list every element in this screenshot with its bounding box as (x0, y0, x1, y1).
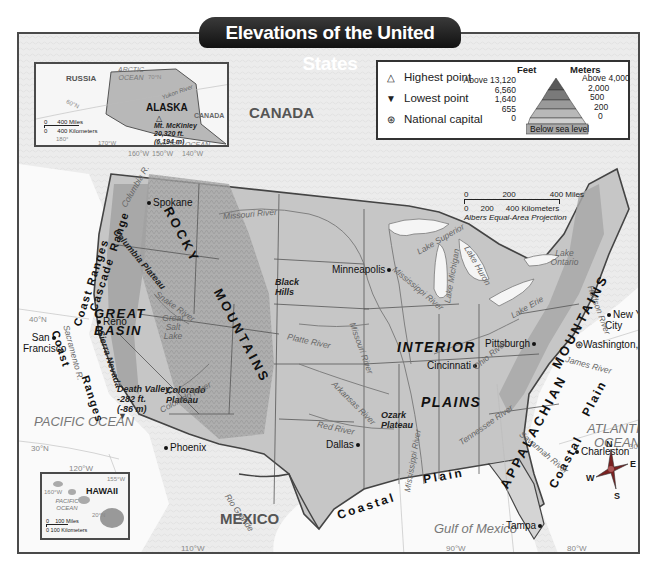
label-black-hills: BlackHills (275, 277, 299, 297)
map-title: Elevations of the United States (199, 17, 461, 48)
grid-lon-110: 110°W (181, 544, 205, 553)
alaska-grid-lon-170: 170°W (98, 140, 116, 146)
label-lake-ontario: Lake Ontario (547, 249, 582, 267)
grid-lat-40: 40°N (29, 315, 47, 324)
alaska-title: ALASKA (146, 102, 188, 113)
national-capital-icon: ⊛ (575, 339, 583, 350)
city-cincinnati: Cincinnati (427, 360, 479, 371)
city-san-francisco: SanFrancisco (23, 332, 66, 354)
hawaii-scale: 0 100 Miles 0 100 Kilometers (46, 518, 87, 533)
alaska-inset: RUSSIA ARCTIC OCEAN 70°N 60°N Yukon Rive… (34, 62, 229, 147)
alaska-scale: 0 400 Miles 0 400 Kilometers (44, 119, 97, 134)
city-phoenix: Phoenix (162, 442, 206, 453)
city-reno: Reno (95, 316, 127, 327)
compass-e: E (630, 459, 636, 469)
alaska-label-arctic-ocean: ARCTIC OCEAN (116, 66, 146, 82)
legend-feet-header: Feet (517, 64, 537, 75)
alaska-label-pacific-ocean: PACIFIC OCEAN (156, 138, 210, 147)
legend-feet-scale: Above 13,120 6,560 1,640 655 0 (464, 76, 516, 124)
grid-lat-30-west: 30°N (31, 444, 49, 453)
alaska-grid-lon-140: 140°W (182, 150, 203, 157)
city-washington-dc: ⊛Washington, D.C. (575, 339, 640, 350)
compass-n: N (606, 439, 613, 449)
label-gulf-of-mexico: Gulf of Mexico (434, 522, 517, 536)
map-legend: △ Highest point ▼ Lowest point ⊛ Nationa… (376, 60, 630, 140)
city-dallas: Dallas (326, 439, 362, 450)
alaska-label-canada: CANADA (194, 112, 224, 119)
grid-lon-90: 90°W (446, 544, 466, 553)
legend-label: Highest point (404, 71, 471, 83)
legend-below-sea-level: Below sea level (530, 124, 589, 134)
lowest-point-marker-icon: ▼ (118, 411, 127, 421)
alaska-label-russia: RUSSIA (66, 74, 96, 83)
hawaii-label-pacific-ocean: PACIFIC OCEAN (52, 498, 82, 512)
label-interior: INTERIOR (397, 339, 476, 355)
grid-lon-70: 70°W (639, 320, 640, 329)
hawaii-grid-lon-160: 160°W (44, 489, 62, 495)
city-spokane: Spokane (145, 197, 192, 208)
map-scale-bar: 0200400 Miles 0200400 Kilometers Albers … (464, 190, 584, 222)
alaska-grid-lon-180: 180° (56, 136, 68, 142)
star-in-circle-icon: ⊛ (386, 114, 396, 125)
label-canada: CANADA (249, 104, 314, 121)
triangle-down-filled-icon: ▼ (386, 93, 396, 104)
label-plains: PLAINS (421, 394, 481, 410)
triangle-outline-icon: △ (386, 72, 396, 83)
compass-w: W (586, 473, 595, 483)
alaska-grid-lon-160: 160°W (128, 150, 149, 157)
grid-lon-80: 80°W (567, 544, 587, 553)
compass-rose: N E W S (586, 439, 636, 499)
hawaii-inset: HAWAII 160°W 155°W 20°N PACIFIC OCEAN 0 … (40, 472, 130, 540)
legend-item-highest-point: △ Highest point (386, 71, 471, 83)
alaska-grid-lon-150: 150°W (152, 150, 173, 157)
hawaii-grid-lat-20: 20°N (92, 512, 105, 518)
alaska-grid-lat-70: 70°N (148, 74, 161, 80)
legend-item-lowest-point: ▼ Lowest point (386, 92, 469, 104)
label-ozark-plateau: OzarkPlateau (381, 410, 413, 430)
legend-label: Lowest point (404, 92, 469, 104)
city-minneapolis: Minneapolis (332, 264, 393, 275)
hawaii-grid-lon-155: 155°W (107, 476, 125, 482)
city-tampa: Tampa (506, 520, 544, 531)
compass-s: S (614, 491, 620, 501)
hawaii-title: HAWAII (86, 486, 118, 496)
legend-meters-scale: Above 4,000 2,000 500 200 0 (582, 74, 630, 122)
